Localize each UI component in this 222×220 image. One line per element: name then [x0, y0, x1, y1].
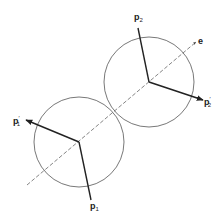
label-p2-sub: 2: [140, 17, 144, 23]
label-p2-prime-sub: 2: [208, 102, 212, 108]
label-e: e: [198, 36, 203, 46]
label-p2: p2: [134, 12, 144, 23]
label-p1-prime-sub: 1: [17, 121, 21, 127]
label-p2-prime: p′2: [204, 96, 212, 108]
label-p1: p1: [90, 201, 100, 212]
vector-p2: [138, 28, 149, 82]
collision-diagram: e p2 p′2 p′1 p1: [0, 0, 222, 220]
vector-p2-prime: [149, 82, 203, 100]
label-p1-sub: 1: [96, 206, 100, 212]
line-of-centers-e: [27, 42, 196, 185]
label-p1-prime: p′1: [13, 115, 21, 127]
vector-p1: [79, 142, 91, 200]
